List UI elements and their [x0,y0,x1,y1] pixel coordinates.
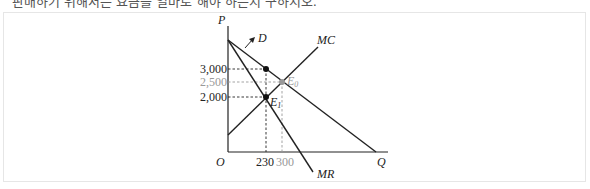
y-tick-2000: 2,000 [200,90,227,104]
monopoly-diagram: P Q O D MC MR 3,000 2,500 2,000 230 300 … [0,0,590,189]
e1-label: E1 [269,95,281,110]
demand-label: D [257,31,267,45]
x-tick-300: 300 [276,155,294,169]
price-point [263,66,269,72]
y-tick-2500: 2,500 [200,75,227,89]
y-axis-label: P [217,13,226,27]
e0-label: E0 [286,74,298,89]
x-tick-230: 230 [256,155,274,169]
mc-label: MC [316,33,336,47]
mr-label: MR [316,167,335,181]
e1-point [263,94,269,100]
origin-label: O [216,155,225,169]
x-axis-label: Q [377,155,386,169]
y-tick-3000: 3,000 [200,62,227,76]
e0-point [279,79,285,85]
demand-curve [228,40,376,152]
